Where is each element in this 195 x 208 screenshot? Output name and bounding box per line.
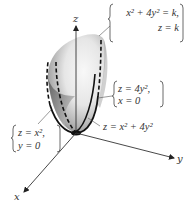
yz-trace-line2: x = 0 xyxy=(118,95,150,106)
level-curve-line1: x² + 4y² = k, xyxy=(115,7,179,18)
level-curve-line2: z = k xyxy=(115,22,179,33)
xz-trace-annotation: z = x², y = 0 xyxy=(18,127,45,151)
yz-trace-annotation: z = 4y², x = 0 xyxy=(118,83,150,106)
z-axis-label: z xyxy=(73,14,78,24)
y-axis xyxy=(76,133,174,158)
xz-trace-line1: z = x², xyxy=(18,127,45,138)
x-axis-label: x xyxy=(14,192,20,202)
surface-equation: z = x² + 4y² xyxy=(103,121,153,132)
xz-trace-line2: y = 0 xyxy=(18,140,45,151)
y-axis-label: y xyxy=(177,154,183,164)
paraboloid-diagram: z y x x² + 4y² = k, z = k z = 4y², x = 0… xyxy=(0,0,195,208)
level-curve-annotation: x² + 4y² = k, z = k xyxy=(115,7,179,33)
yz-trace-line1: z = 4y², xyxy=(118,83,150,94)
